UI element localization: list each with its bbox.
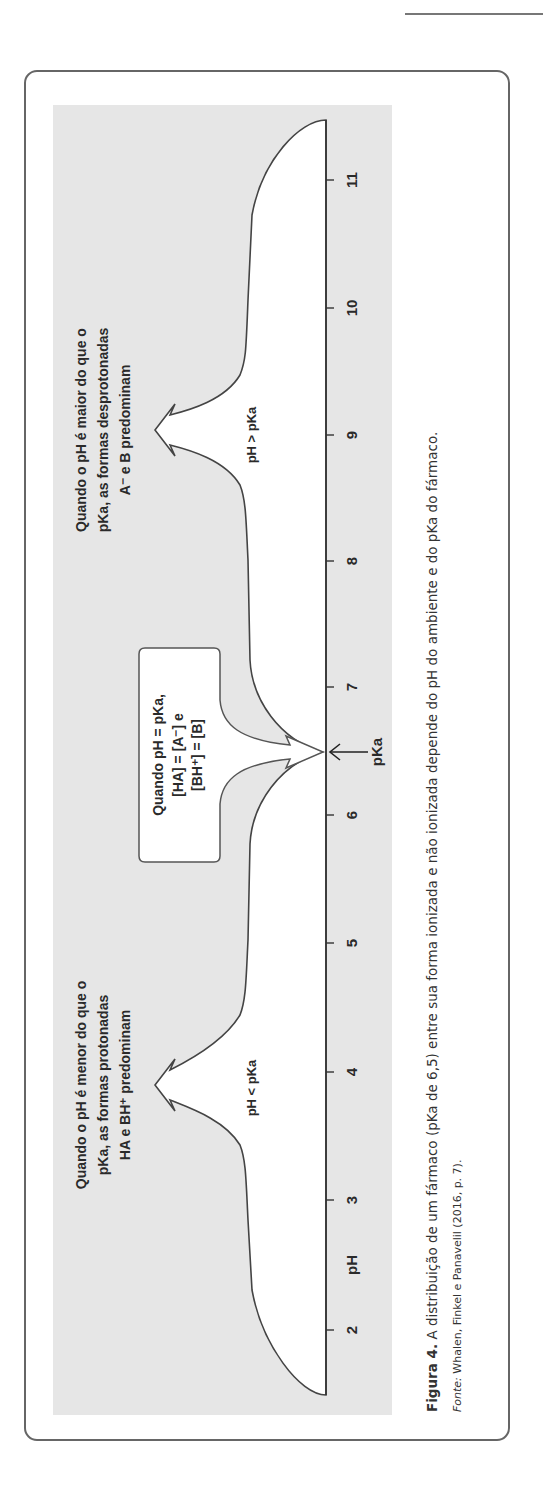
svg-text:Quando o pH é menor do que o: Quando o pH é menor do que o bbox=[73, 981, 89, 1189]
tick-label: 4 bbox=[343, 1067, 360, 1076]
svg-text:Quando pH = pKa,: Quando pH = pKa, bbox=[150, 694, 166, 816]
ph-distribution-figure: 11 10 9 8 7 6 5 4 3 2 pH pKa pH > pKa pH… bbox=[0, 0, 543, 1509]
caption-text: A distribuição de um fármaco (pKa de 6,5… bbox=[424, 432, 440, 1344]
tick-label: 11 bbox=[343, 172, 360, 188]
pka-marker-label: pKa bbox=[368, 737, 385, 766]
annotation-low-ph: Quando o pH é menor do que o pKa, as for… bbox=[73, 981, 133, 1189]
source-label: Fonte: bbox=[451, 1377, 464, 1412]
tick-label: 8 bbox=[343, 557, 360, 565]
tick-label: 3 bbox=[343, 1196, 360, 1204]
svg-text:pKa, as formas protonadas: pKa, as formas protonadas bbox=[95, 995, 111, 1176]
tick-label: 7 bbox=[343, 683, 360, 691]
svg-text:[HA] = [A⁻] e: [HA] = [A⁻] e bbox=[170, 713, 186, 797]
region-label-high: pH > pKa bbox=[244, 406, 259, 463]
caption-label: Figura 4. bbox=[424, 1344, 440, 1412]
figure-source: Fonte: Whalen, Finkel e Panavelil (2016,… bbox=[451, 1160, 464, 1412]
source-text: Whalen, Finkel e Panavelil (2016, p. 7). bbox=[451, 1160, 464, 1378]
tick-label: 10 bbox=[343, 300, 360, 317]
svg-text:A⁻ e B predominam: A⁻ e B predominam bbox=[117, 365, 133, 496]
tick-label: 6 bbox=[343, 811, 360, 819]
region-label-low: pH < pKa bbox=[244, 1059, 259, 1116]
svg-text:[BH⁺] = [B]: [BH⁺] = [B] bbox=[189, 719, 205, 791]
tick-label: 2 bbox=[343, 1326, 360, 1334]
axis-label: pH bbox=[343, 1255, 360, 1275]
tick-label: 9 bbox=[343, 431, 360, 439]
figure-caption: Figura 4. A distribuição de um fármaco (… bbox=[424, 432, 440, 1412]
svg-text:Quando o pH é maior do que o: Quando o pH é maior do que o bbox=[73, 328, 89, 532]
svg-text:pKa, as formas desprotonadas: pKa, as formas desprotonadas bbox=[95, 327, 111, 532]
svg-text:HA e BH⁺ predominam: HA e BH⁺ predominam bbox=[117, 1010, 133, 1160]
tick-label: 5 bbox=[343, 939, 360, 947]
